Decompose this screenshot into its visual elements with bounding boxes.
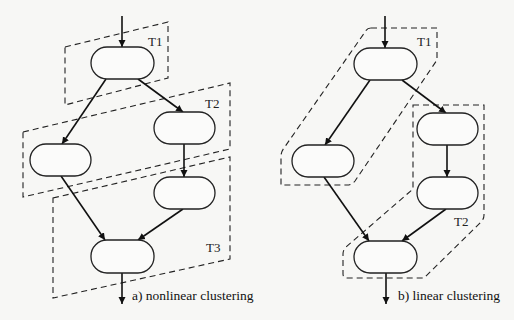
edge-left-bottom	[61, 176, 105, 240]
edge-top-left	[325, 80, 370, 145]
cluster-label-t2: T2	[454, 214, 468, 229]
nonlinear-clustering-diagram: T1 T2 T3 a) nonlinear clustering	[23, 16, 254, 304]
cluster-label-t2: T2	[205, 96, 219, 111]
edge-rightlower-bottom	[402, 209, 446, 241]
node-top	[91, 47, 154, 79]
caption-nonlinear: a) nonlinear clustering	[132, 288, 254, 303]
edge-rightlower-bottom	[138, 209, 183, 240]
node-top	[354, 48, 417, 80]
node-right	[154, 112, 215, 144]
node-left	[292, 145, 354, 177]
cluster-label-t1: T1	[148, 34, 162, 49]
edge-top-right	[402, 80, 446, 113]
cluster-label-t1: T1	[417, 34, 431, 49]
caption-linear: b) linear clustering	[398, 288, 500, 303]
linear-clustering-diagram: T1 T2 b) linear clustering	[281, 16, 500, 304]
node-right	[417, 113, 478, 145]
node-bottom	[354, 241, 417, 273]
node-right-lower	[154, 177, 215, 209]
cluster-label-t3: T3	[206, 240, 220, 255]
clustering-figure: T1 T2 T3 a) nonlinear clustering T1 T2	[0, 0, 514, 320]
edge-top-right	[138, 79, 183, 112]
edge-left-bottom	[324, 177, 369, 241]
node-bottom	[91, 240, 154, 273]
edge-top-left	[62, 79, 106, 144]
node-left	[30, 144, 91, 176]
node-right-lower	[417, 177, 478, 209]
